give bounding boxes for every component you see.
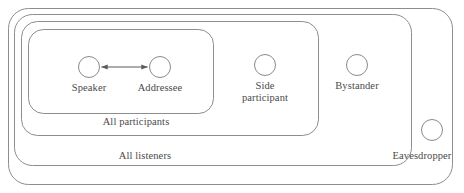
node-circle-eavesdropper (422, 120, 443, 141)
node-label-speaker: Speaker (54, 82, 124, 94)
node-label-side-participant: Side participant (230, 80, 300, 104)
group-label-all-participants: All participants (76, 116, 196, 128)
node-label-bystander: Bystander (322, 80, 392, 92)
node-circle-bystander (347, 55, 368, 76)
group-label-all-listeners: All listeners (90, 150, 200, 162)
node-label-eavesdropper: Eavesdropper (382, 150, 462, 162)
node-circle-side-participant (255, 55, 276, 76)
group-box-speaker-addressee (29, 30, 214, 114)
node-circle-addressee (150, 57, 171, 78)
node-label-addressee: Addressee (125, 82, 195, 94)
participant-roles-diagram: Speaker Addressee Side participant Bysta… (0, 0, 464, 193)
node-circle-speaker (79, 57, 100, 78)
